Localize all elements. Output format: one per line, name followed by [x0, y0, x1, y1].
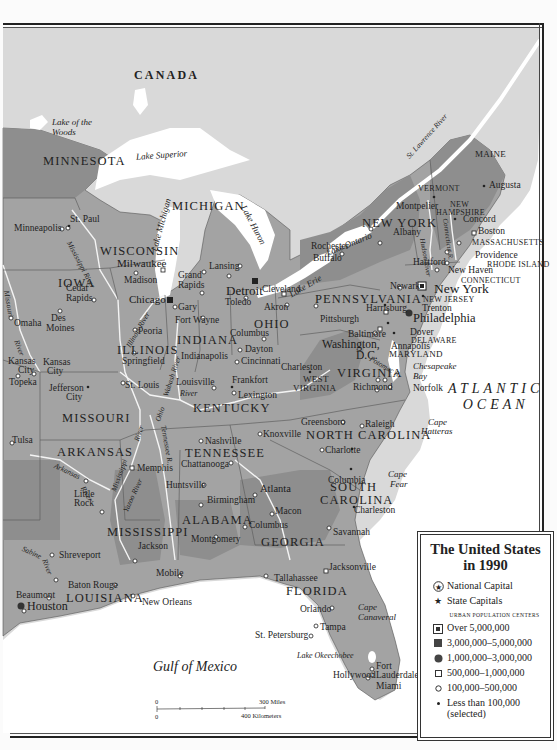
- city-louisville: Louisville: [176, 378, 215, 388]
- label-canada: CANADA: [134, 69, 199, 81]
- state-georgia: GEORGIA: [261, 536, 325, 549]
- city-boston: Boston: [478, 227, 505, 237]
- scale-zero-miles: 0: [155, 699, 158, 706]
- label-ohio-river: River: [180, 390, 197, 398]
- legend-label: State Capitals: [447, 596, 502, 607]
- state-indiana: INDIANA: [177, 334, 238, 347]
- state-virginia: VIRGINIA: [337, 367, 403, 380]
- legend-title-line-1: The United States: [430, 541, 540, 557]
- map-legend: The United Statesin 1990 ★ National Capi…: [420, 534, 551, 738]
- city-madison: Madison: [124, 276, 157, 286]
- city-norfolk: Norfolk: [413, 384, 443, 394]
- legend-row-over-5m: Over 5,000,000: [429, 623, 550, 634]
- city-gary: Gary: [178, 303, 197, 313]
- city-albany: Albany: [393, 228, 421, 238]
- filled-square-icon: [429, 638, 447, 649]
- city-jacksonville: Jacksonville: [329, 563, 376, 573]
- state-north-carolina: NORTH CAROLINA: [306, 429, 431, 442]
- city-miami: Miami: [376, 682, 401, 692]
- label-cape-canaveral-1: Cape: [358, 603, 377, 612]
- legend-row-500k-1m: 500,000–1,000,000: [429, 668, 550, 679]
- state-capital-icon: ★: [429, 596, 447, 607]
- city-hollywood: Hollywood: [333, 671, 376, 681]
- city-baton-rouge: Baton Rouge: [68, 581, 118, 591]
- city-new-york: New York: [434, 282, 489, 296]
- legend-row-state-capitals: ★ State Capitals: [429, 596, 550, 607]
- city-raleigh: Raleigh: [365, 420, 395, 430]
- city-columbus-ga: Columbus: [249, 521, 288, 531]
- legend-row-national-capital: ★ National Capital: [429, 581, 550, 592]
- legend-label: National Capital: [447, 581, 513, 592]
- city-newark: Newark: [390, 282, 420, 292]
- legend-label: 3,000,000–5,000,000: [447, 638, 532, 649]
- state-minnesota: MINNESOTA: [43, 155, 126, 168]
- state-west-virginia-2: VIRGINIA: [293, 384, 336, 393]
- city-harrisburg: Harrisburg: [366, 304, 407, 314]
- city-atlanta: Atlanta: [260, 484, 291, 495]
- label-lake-okeechobee: Lake Okeechobee: [297, 652, 354, 660]
- state-louisiana: LOUISIANA: [66, 592, 144, 605]
- open-square-icon: [429, 668, 447, 679]
- city-dayton: Dayton: [245, 345, 273, 355]
- city-birmingham: Birmingham: [207, 496, 255, 506]
- city-buffalo: Buffalo: [313, 254, 342, 264]
- state-michigan: MICHIGAN: [172, 200, 245, 213]
- legend-title: The United Statesin 1990: [421, 541, 550, 573]
- city-frankfort: Frankfort: [232, 376, 268, 386]
- city-washington-2: D.C.: [356, 350, 378, 362]
- city-charlotte: Charlotte: [325, 446, 360, 456]
- city-knoxville: Knoxville: [263, 430, 301, 440]
- city-mobile: Mobile: [156, 569, 183, 579]
- city-philadelphia: Philadelphia: [413, 312, 476, 325]
- city-chicago: Chicago: [129, 294, 166, 305]
- scale-km-label: 400 Kilometers: [241, 713, 281, 720]
- city-pittsburgh: Pittsburgh: [320, 315, 359, 325]
- city-des-moines-2: Moines: [46, 324, 75, 334]
- city-toledo: Toledo: [225, 298, 251, 308]
- city-shreveport: Shreveport: [59, 551, 101, 561]
- city-columbia: Columbia: [328, 476, 365, 486]
- city-savannah: Savannah: [333, 528, 370, 538]
- scale-miles-label: 300 Miles: [259, 699, 285, 706]
- state-kentucky: KENTUCKY: [193, 402, 271, 415]
- state-alabama: ALABAMA: [182, 514, 253, 527]
- state-tennessee: TENNESSEE: [185, 447, 265, 460]
- city-new-orleans: New Orleans: [142, 598, 192, 608]
- frame-top-inner: [3, 27, 543, 28]
- city-indianapolis: Indianapolis: [181, 352, 228, 362]
- city-nashville: Nashville: [205, 437, 241, 447]
- state-vermont: VERMONT: [418, 185, 460, 193]
- legend-subheading: URBAN POPULATION CENTERS: [439, 612, 550, 618]
- city-orlando: Orlando: [300, 605, 331, 615]
- state-wisconsin: WISCONSIN: [100, 245, 179, 258]
- city-topeka: Topeka: [9, 378, 37, 388]
- city-houston: Houston: [27, 600, 68, 612]
- city-greensboro: Greensboro: [301, 418, 345, 428]
- city-peoria: Peoria: [138, 327, 162, 337]
- city-tulsa: Tulsa: [12, 436, 33, 446]
- legend-label: Less than 100,000(selected): [447, 698, 520, 719]
- state-rhode-island: RHODE ISLAND: [487, 261, 550, 269]
- city-little-rock-2: Rock: [74, 499, 94, 509]
- city-macon: Macon: [275, 507, 301, 517]
- national-capital-icon: ★: [429, 581, 447, 592]
- city-tallahassee: Tallahassee: [274, 574, 318, 584]
- city-akron: Akron: [264, 303, 288, 313]
- city-cincinnati: Cincinnati: [241, 357, 281, 367]
- label-chesapeake-1: Chesapeake: [413, 362, 456, 371]
- label-chesapeake-2: Bay: [413, 372, 427, 381]
- legend-label-line-2: (selected): [447, 708, 486, 719]
- dot-icon: [429, 698, 447, 709]
- state-arkansas: ARKANSAS: [57, 446, 133, 459]
- legend-row-1m-3m: 1,000,000–3,000,000: [429, 653, 550, 664]
- legend-label: Over 5,000,000: [447, 623, 510, 634]
- city-new-haven: New Haven: [448, 266, 493, 276]
- city-st-petersburg: St. Petersburg: [255, 631, 308, 641]
- atlantic-line-1: ATLANTIC: [448, 381, 543, 396]
- city-fort-wayne: Fort Wayne: [175, 316, 219, 326]
- city-providence: Providence: [475, 251, 518, 261]
- city-richmond: Richmond: [353, 383, 393, 393]
- label-gulf-of-mexico: Gulf of Mexico: [153, 660, 237, 674]
- city-cedar-rapids-2: Rapids: [66, 294, 92, 304]
- city-kansas-city-mo-2: City: [47, 367, 63, 377]
